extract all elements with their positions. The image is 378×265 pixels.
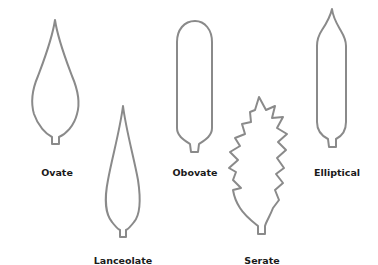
leaf-serate: Serate: [229, 97, 287, 265]
leaf-lanceolate: Lanceolate: [94, 106, 152, 265]
leaf-elliptical: Elliptical: [314, 9, 360, 178]
lanceolate-label: Lanceolate: [94, 255, 152, 265]
serate-label: Serate: [244, 255, 279, 265]
leaf-shapes-diagram: Ovate Lanceolate Obovate Serate Elliptic…: [0, 0, 378, 265]
obovate-label: Obovate: [173, 167, 218, 178]
ovate-label: Ovate: [41, 167, 73, 178]
serate-leaf-outline: [229, 97, 287, 234]
lanceolate-leaf-outline: [106, 106, 140, 237]
elliptical-leaf-outline: [317, 9, 346, 147]
leaf-ovate: Ovate: [32, 20, 78, 178]
elliptical-label: Elliptical: [314, 167, 360, 178]
leaf-obovate: Obovate: [173, 21, 218, 178]
obovate-leaf-outline: [177, 21, 212, 152]
ovate-leaf-outline: [32, 20, 78, 144]
